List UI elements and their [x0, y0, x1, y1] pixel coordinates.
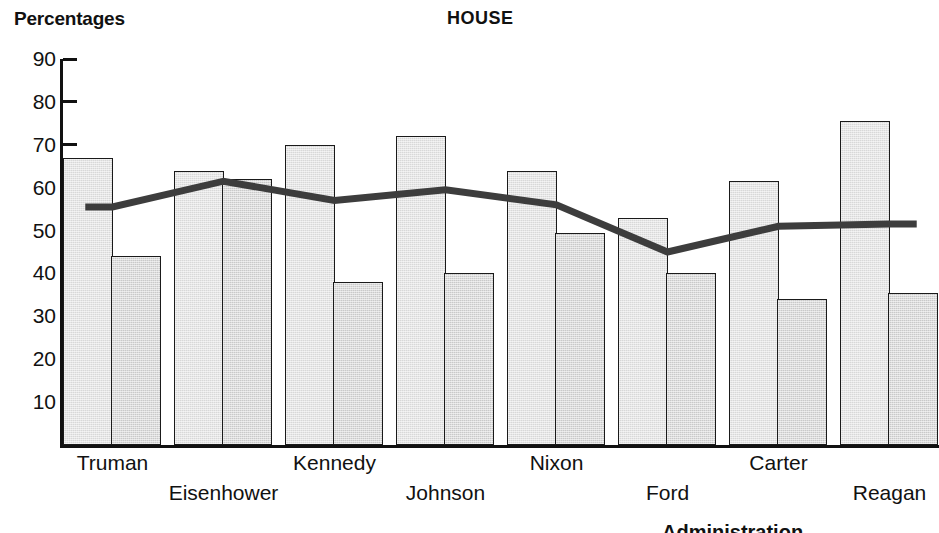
x-label-nixon: Nixon — [467, 452, 647, 474]
x-label-carter: Carter — [689, 452, 869, 474]
x-label-ford: Ford — [578, 482, 758, 504]
chart-canvas: Percentages HOUSE 102030405060708090 Tru… — [0, 0, 939, 533]
x-label-truman: Truman — [23, 452, 203, 474]
x-axis-title: Administration — [662, 521, 803, 533]
x-axis-category-labels: TrumanEisenhowerKennedyJohnsonNixonFordC… — [60, 452, 939, 514]
y-tick-label: 20 — [10, 348, 56, 369]
trend-line-path — [85, 181, 916, 252]
x-label-kennedy: Kennedy — [245, 452, 425, 474]
y-tick-label: 50 — [10, 220, 56, 241]
y-tick-label: 60 — [10, 177, 56, 198]
y-tick-label: 40 — [10, 262, 56, 283]
x-label-reagan: Reagan — [800, 482, 939, 504]
y-tick-label: 80 — [10, 91, 56, 112]
trend-line-series — [60, 52, 939, 452]
y-axis-tick-labels: 102030405060708090 — [0, 52, 56, 452]
y-tick-label: 10 — [10, 391, 56, 412]
y-axis-title: Percentages — [14, 8, 125, 30]
y-tick-label: 70 — [10, 134, 56, 155]
y-tick-label: 90 — [10, 48, 56, 69]
x-label-johnson: Johnson — [356, 482, 536, 504]
y-tick-label: 30 — [10, 305, 56, 326]
x-label-eisenhower: Eisenhower — [134, 482, 314, 504]
plot-area — [60, 52, 939, 452]
chart-title: HOUSE — [447, 8, 514, 29]
